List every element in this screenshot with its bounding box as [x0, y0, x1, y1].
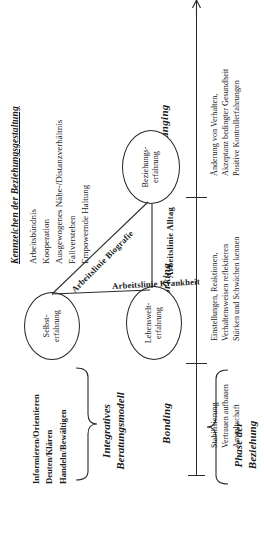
kennzeichen-title: Kennzeichen der Beziehungsgestaltung	[10, 106, 21, 264]
workline-label-alltag: Arbeitslinie Alltag	[166, 207, 176, 278]
connector-biografie	[0, 0, 264, 556]
kennzeichen-list: Arbeitsbündnis Kooperation Ausgewogenes …	[27, 120, 92, 264]
kennzeichen-item: Empowernde Haltung	[79, 120, 92, 264]
kennzeichen-item: Ausgewogenes Nähe-/Distanzverhältnis	[53, 120, 66, 264]
diagram-canvas: Phase der Beziehung Bonding Stabilisieru…	[0, 0, 264, 556]
diagram-figure: Phase der Beziehung Bonding Stabilisieru…	[0, 0, 264, 556]
kennzeichen-item: Fallverstehen	[66, 120, 79, 264]
kennzeichen-item: Arbeitsbündnis	[27, 120, 40, 264]
kennzeichen-item: Kooperation	[40, 120, 53, 264]
